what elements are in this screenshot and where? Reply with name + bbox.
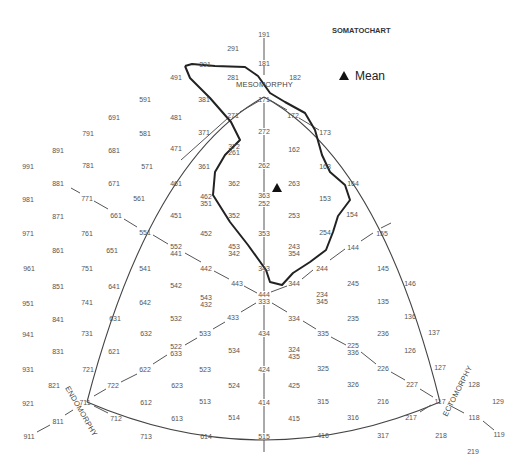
somatotype-label: 129: [492, 398, 504, 405]
somatotype-label: 671: [108, 180, 120, 187]
ecto-line-seg: [330, 249, 345, 260]
somatotype-label: 632: [140, 330, 152, 337]
somatotype-label: 136: [404, 313, 416, 320]
ecto-tail-seg: [483, 421, 494, 430]
somatotype-label: 571: [141, 163, 153, 170]
somatotype-label: 741: [81, 299, 93, 306]
ecto-line-seg: [361, 233, 373, 241]
somatotype-label: 641: [108, 283, 120, 290]
somatotype-label: 416: [317, 432, 329, 439]
somatotype-label: 712: [110, 415, 122, 422]
endo-line: [71, 188, 80, 193]
somatotype-label: 334: [288, 315, 300, 322]
somatotype-label: 542: [170, 282, 182, 289]
endo-ecto-left-seg: [185, 338, 197, 345]
somatotype-label: 272: [258, 128, 270, 135]
somatotype-label: 451: [170, 212, 182, 219]
somatotype-label: 633: [170, 350, 182, 357]
somatotype-label: 127: [434, 364, 446, 371]
somatotype-label: 317: [377, 432, 389, 439]
endo-ecto-left-seg: [153, 355, 167, 364]
somatotype-label: 581: [139, 130, 151, 137]
somatotype-label: 345: [316, 298, 328, 305]
somatotype-label: 254: [319, 229, 331, 236]
endo-line-seg: [94, 201, 108, 209]
somatotype-label: 621: [108, 348, 120, 355]
somatotype-label: 911: [23, 433, 34, 440]
somatotype-label: 731: [81, 330, 93, 337]
endo-line-seg: [185, 253, 201, 262]
somatotype-label: 471: [170, 145, 182, 152]
mesomorphy-label: MESOMORPHY: [236, 80, 293, 89]
somatotype-label: 534: [228, 347, 240, 354]
somatotype-label: 119: [493, 431, 504, 438]
somatotype-label: 543: [200, 294, 212, 301]
somatotype-label: 227: [406, 381, 418, 388]
somatotype-label: 722: [107, 382, 119, 389]
somatotype-label: 226: [377, 365, 389, 372]
somatotype-label: 263: [288, 180, 300, 187]
somatotype-label: 216: [377, 398, 389, 405]
somatotype-label: 415: [288, 415, 300, 422]
somatotype-label: 245: [347, 280, 359, 287]
somatotype-label: 981: [22, 196, 34, 203]
endo-line-seg: [153, 235, 168, 244]
somatotype-label: 931: [22, 366, 34, 373]
mean-marker-icon: [272, 183, 282, 192]
endo-ecto-left-seg: [94, 389, 106, 396]
somatotype-label: 444: [258, 291, 270, 298]
somatotype-label: 781: [82, 162, 94, 169]
somatotype-label: 262: [258, 162, 270, 169]
somatotype-label: 921: [22, 400, 34, 407]
somatotype-label: 137: [428, 329, 440, 336]
somatotype-label: 335: [317, 330, 329, 337]
somatotype-label: 414: [258, 399, 270, 406]
mean-legend-marker-icon: [339, 71, 349, 80]
somatotype-label: 461: [170, 180, 182, 187]
somatotype-label: 191: [258, 31, 270, 38]
somatotype-label: 513: [199, 398, 211, 405]
somatotype-label: 235: [347, 315, 359, 322]
somatochart-plot: 1912911813911822814911715913811722716914…: [0, 0, 527, 471]
somatotype-label: 219: [467, 448, 479, 455]
endo-ecto-right: [272, 303, 287, 312]
somatotype-label: 891: [52, 147, 64, 154]
somatotype-label: 424: [258, 366, 270, 373]
somatotype-label: 442: [200, 265, 212, 272]
somatotype-label: 771: [81, 195, 93, 202]
legend: Mean: [339, 69, 385, 83]
somatotype-label: 761: [81, 230, 93, 237]
somatotype-label: 391: [199, 61, 211, 68]
somatotype-label: 811: [52, 418, 63, 425]
somatotype-label: 325: [317, 365, 329, 372]
endomorphy-label: ENDOMORPHY: [63, 385, 99, 439]
somatochart: 1912911813911822814911715913811722716914…: [0, 0, 527, 471]
somatotype-label: 352: [228, 212, 240, 219]
somatotype-label: 236: [377, 330, 389, 337]
endo-tail-seg: [65, 410, 73, 415]
endo-meso-diagonal-seg: [181, 118, 228, 160]
somatotype-label: 336: [347, 349, 359, 356]
endo-tail-seg: [37, 425, 50, 432]
somatotype-label: 243: [288, 243, 300, 250]
somatotype-label: 661: [110, 212, 122, 219]
somatotype-label: 253: [288, 212, 300, 219]
somatotype-label: 951: [22, 300, 34, 307]
somatotype-label: 144: [347, 244, 359, 251]
somatotype-label: 234: [316, 291, 328, 298]
endo-ecto-left-seg: [121, 374, 137, 382]
somatotype-label: 261: [228, 149, 240, 156]
somatotype-label: 881: [52, 180, 64, 187]
somatotype-label: 861: [52, 247, 64, 254]
somatotype-label: 117: [434, 398, 445, 405]
somatotype-label: 432: [200, 301, 212, 308]
somatotype-label: 642: [139, 299, 151, 306]
somatotype-label: 126: [404, 347, 416, 354]
somatotype-label: 271: [227, 112, 239, 119]
somatotype-label: 462: [200, 193, 212, 200]
somatotype-label: 425: [288, 382, 300, 389]
somatotype-label: 481: [170, 114, 182, 121]
somatotype-label: 146: [404, 280, 416, 287]
somatotype-label: 371: [198, 129, 210, 136]
somatotype-label: 145: [377, 265, 389, 272]
